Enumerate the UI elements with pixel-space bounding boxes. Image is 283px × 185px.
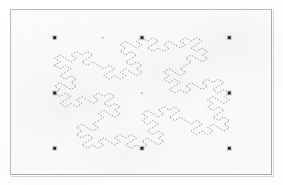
control-point-marker bbox=[227, 91, 232, 96]
faint-marker-layer bbox=[54, 37, 143, 94]
control-point-marker bbox=[227, 146, 232, 151]
faint-marker bbox=[54, 64, 56, 66]
figure-frame bbox=[10, 9, 272, 175]
control-point-marker bbox=[52, 91, 57, 96]
control-point-marker bbox=[52, 35, 57, 40]
control-point-marker bbox=[140, 146, 145, 151]
faint-marker bbox=[141, 92, 143, 94]
control-point-marker bbox=[227, 35, 232, 40]
control-point-marker bbox=[52, 146, 57, 151]
control-point-marker bbox=[140, 35, 145, 40]
screenshot-root bbox=[0, 0, 283, 185]
fractal-plot bbox=[11, 10, 272, 175]
faint-marker bbox=[102, 37, 104, 39]
